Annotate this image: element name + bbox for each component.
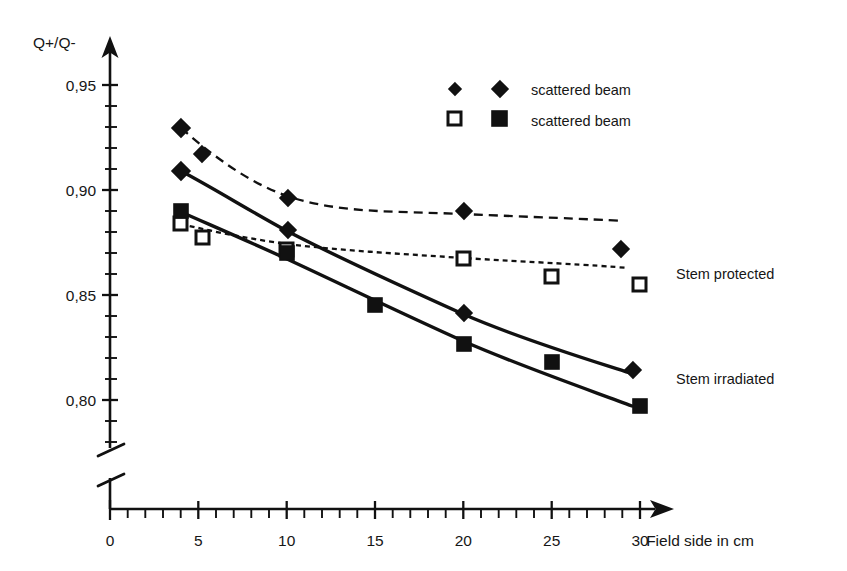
x-axis-title: Field side in cm [646,532,754,549]
markers-protected-square [174,217,646,291]
data-point [613,241,629,257]
data-point [633,278,646,291]
curve-irradiated-diamond [181,171,630,373]
x-tick-label-4: 20 [455,532,473,549]
x-tick-label-3: 15 [366,532,383,549]
data-point [545,355,559,369]
diamond-filled-large-icon [492,81,508,97]
data-point [280,190,296,206]
x-tick-label-0: 0 [106,532,115,549]
data-point [457,337,471,351]
data-point [194,146,210,162]
annotation-stem-irradiated: Stem irradiated [676,371,774,387]
square-open-icon [448,112,461,125]
annotation-stem-protected: Stem protected [676,266,774,282]
y-axis-title: Q+/Q- [33,34,76,51]
y-tick-label-0: 0,95 [66,77,96,94]
chart-canvas: 0,95 0,90 0,85 0,80 Q+/Q- [0,0,847,571]
markers-irradiated-diamond [172,162,641,378]
y-axis: 0,95 0,90 0,85 0,80 Q+/Q- [33,34,124,509]
data-point [456,203,472,219]
x-tick-label-2: 10 [278,532,296,549]
data-point [174,204,188,218]
legend-row-0[interactable]: scattered beam [449,81,631,98]
data-point [545,270,558,283]
legend: scattered beam scattered beam [448,81,631,129]
legend-label-1: scattered beam [531,113,631,129]
data-point [172,162,190,180]
curve-protected-square [181,224,628,268]
legend-label-0: scattered beam [531,82,631,98]
x-tick-label-5: 25 [543,532,560,549]
data-point [368,298,382,312]
legend-row-1[interactable]: scattered beam [448,111,631,129]
curve-irradiated-square [181,212,632,406]
series-curves [181,128,632,406]
chart-figure: 0,95 0,90 0,85 0,80 Q+/Q- [0,0,847,571]
data-point [196,231,209,244]
square-filled-icon [492,111,507,126]
data-point [633,399,647,413]
y-tick-label-2: 0,85 [66,287,96,304]
x-tick-label-1: 5 [194,532,203,549]
data-point [174,217,187,230]
x-axis: 0 5 10 15 20 25 30 Field side in cm [106,500,754,549]
data-point [280,246,294,260]
y-tick-label-1: 0,90 [66,182,97,199]
markers-irradiated-square [174,204,647,413]
y-tick-label-3: 0,80 [66,392,97,409]
diamond-filled-small-icon [449,83,461,95]
data-point [457,252,470,265]
data-point [625,362,641,378]
